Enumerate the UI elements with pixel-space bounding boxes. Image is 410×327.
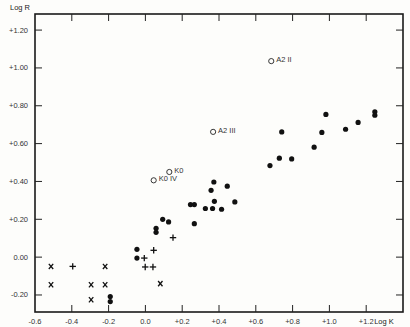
data-point-open-circle bbox=[151, 178, 156, 183]
x-tick-label: +0.2 bbox=[175, 317, 190, 326]
data-point-label: A2 III bbox=[218, 126, 236, 135]
y-tick-label: +0.40 bbox=[9, 177, 28, 186]
data-point-x bbox=[103, 282, 107, 287]
y-tick-label: +1.00 bbox=[9, 63, 28, 72]
data-point-x bbox=[49, 264, 53, 269]
data-point-plus bbox=[170, 234, 176, 240]
y-tick-label: +0.80 bbox=[9, 101, 28, 110]
data-point-x bbox=[158, 281, 162, 286]
data-point-dot bbox=[279, 129, 284, 134]
data-point-dot bbox=[160, 217, 165, 222]
axis-ticks: -0.6-0.4-0.20.0+0.2+0.4+0.6+0.8+1.0+1.2+… bbox=[9, 14, 403, 326]
data-point-dot bbox=[203, 206, 208, 211]
data-point-dot bbox=[108, 294, 113, 299]
data-point-label: A2 II bbox=[276, 55, 291, 64]
data-point-dot bbox=[267, 163, 272, 168]
data-point-dot bbox=[211, 179, 216, 184]
data-point-x bbox=[103, 264, 107, 269]
data-point-open-circle bbox=[211, 129, 216, 134]
data-point-dot bbox=[153, 230, 158, 235]
data-point-plus bbox=[142, 264, 148, 270]
data-point-dot bbox=[219, 207, 224, 212]
x-tick-label: 0.0 bbox=[140, 317, 150, 326]
data-point-dot bbox=[134, 255, 139, 260]
x-tick-label: +0.8 bbox=[285, 317, 300, 326]
data-point-dot bbox=[356, 120, 361, 125]
x-tick-label: -0.2 bbox=[102, 317, 115, 326]
y-axis-title: Log R bbox=[10, 3, 31, 12]
data-point-dot bbox=[192, 202, 197, 207]
data-point-plus bbox=[150, 264, 156, 270]
data-point-dot bbox=[277, 156, 282, 161]
data-point-dot bbox=[225, 184, 230, 189]
data-point-dot bbox=[323, 112, 328, 117]
y-tick-label: 0.00 bbox=[13, 253, 28, 262]
scatter-chart: -0.6-0.4-0.20.0+0.2+0.4+0.6+0.8+1.0+1.2+… bbox=[0, 0, 410, 327]
data-point-dot bbox=[166, 219, 171, 224]
data-point-plus bbox=[141, 255, 147, 261]
data-point-dot bbox=[208, 188, 213, 193]
data-point-x bbox=[89, 297, 93, 302]
data-point-dot bbox=[312, 145, 317, 150]
data-point-dot bbox=[134, 247, 139, 252]
data-point-plus bbox=[70, 263, 76, 269]
plot-frame bbox=[35, 14, 403, 312]
x-tick-label: +1.2 bbox=[359, 317, 374, 326]
data-point-dot bbox=[108, 299, 113, 304]
data-point-dot bbox=[343, 127, 348, 132]
x-tick-label: -0.6 bbox=[29, 317, 42, 326]
y-tick-label: -0.20 bbox=[11, 290, 28, 299]
data-point-x bbox=[49, 282, 53, 287]
data-point-dot bbox=[210, 206, 215, 211]
data-point-dot bbox=[212, 199, 217, 204]
data-point-label: K0 IV bbox=[159, 174, 177, 183]
y-tick-label: +1.20 bbox=[9, 26, 28, 35]
data-point-dot bbox=[192, 221, 197, 226]
data-point-dot bbox=[319, 130, 324, 135]
x-tick-label: +0.4 bbox=[212, 317, 227, 326]
x-tick-label: +0.6 bbox=[248, 317, 263, 326]
y-tick-label: +0.20 bbox=[9, 215, 28, 224]
data-point-dot bbox=[372, 113, 377, 118]
x-axis-title: Log K bbox=[374, 317, 394, 326]
data-point-dot bbox=[289, 156, 294, 161]
x-tick-label: -0.4 bbox=[65, 317, 78, 326]
x-tick-label: +1.0 bbox=[322, 317, 337, 326]
data-point-open-circle bbox=[269, 59, 274, 64]
data-point-dot bbox=[232, 199, 237, 204]
data-point-x bbox=[89, 282, 93, 287]
data-point-plus bbox=[150, 247, 156, 253]
data-marks: A2 IIA2 IIIK0K0 IV bbox=[49, 55, 378, 304]
y-tick-label: +0.60 bbox=[9, 139, 28, 148]
